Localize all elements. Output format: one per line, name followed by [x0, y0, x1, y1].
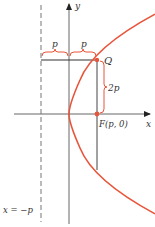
- directrix-label: x = −p: [3, 205, 33, 215]
- brace-2p-label: 2p: [107, 83, 120, 93]
- brace-2p: [100, 61, 107, 113]
- brace-right-label: p: [81, 39, 87, 49]
- x-axis-label: x: [146, 119, 151, 129]
- point-q-label: Q: [104, 55, 112, 66]
- brace-p-left: [42, 49, 68, 56]
- brace-left-label: p: [52, 39, 58, 49]
- parabola-diagram: y x Q F(p, 0) p p 2p x = −p: [0, 0, 155, 227]
- brace-p-right: [70, 49, 96, 56]
- focus-point: [95, 112, 100, 117]
- point-q: [95, 58, 99, 62]
- focus-label: F(p, 0): [98, 119, 128, 129]
- y-axis-label: y: [74, 1, 81, 11]
